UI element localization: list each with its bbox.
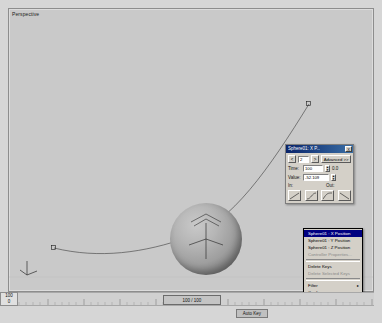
tangent-out-next-button[interactable]	[338, 190, 351, 201]
tangent-buttons-row	[288, 190, 351, 201]
advanced-button[interactable]: Advanced >>	[321, 155, 351, 163]
out-label: Out:	[326, 183, 339, 188]
key-info-title: Sphere01: X P...	[288, 145, 320, 153]
time-slider[interactable]: 100 / 100	[163, 295, 221, 305]
time-row: Time: 100 ▲▼ 0.0	[288, 165, 351, 172]
context-menu-item[interactable]: Delete Keys	[304, 263, 362, 270]
key-info-dialog[interactable]: Sphere01: X P... X < 2 > Advanced >> Tim…	[285, 144, 354, 204]
value-row: Value: -52.109 ▲▼	[288, 174, 351, 181]
tangent-in-prev-button[interactable]	[288, 190, 301, 201]
tangent-in-type-button[interactable]	[305, 190, 318, 201]
current-frame-secondary: 0	[1, 299, 17, 305]
auto-key-button[interactable]: Auto Key	[236, 309, 268, 318]
time-field[interactable]: 100	[303, 165, 323, 172]
key-info-titlebar[interactable]: Sphere01: X P... X	[286, 145, 353, 153]
context-menu-item-label: Sphere01 : Y Position	[308, 237, 350, 244]
in-label: In:	[288, 183, 301, 188]
time-label: Time:	[288, 166, 301, 171]
next-key-button[interactable]: >	[311, 155, 319, 163]
key-nav-row: < 2 > Advanced >>	[288, 155, 351, 163]
current-frame-field[interactable]: 100 0	[0, 292, 18, 306]
context-menu-item[interactable]: Sphere01 : Y Position	[304, 237, 362, 244]
status-bar	[0, 306, 382, 323]
key-info-body: < 2 > Advanced >> Time: 100 ▲▼ 0.0 Value…	[286, 153, 353, 203]
time-unit-label: 0.0	[332, 166, 338, 171]
value-spinner[interactable]: ▲▼	[331, 174, 336, 181]
tangent-out-type-button[interactable]	[321, 190, 334, 201]
close-icon[interactable]: X	[345, 146, 352, 152]
context-menu-separator	[306, 278, 360, 281]
track-bar[interactable]: 100 / 100	[8, 292, 374, 306]
tangent-label-row: In: Out:	[288, 183, 351, 188]
value-field[interactable]: -52.109	[303, 174, 329, 181]
app-window: Perspective	[0, 0, 382, 323]
chevron-right-icon: ▸	[357, 282, 359, 289]
context-menu-item-label: Controller Properties...	[308, 251, 352, 258]
prev-key-button[interactable]: <	[288, 155, 296, 163]
time-spinner[interactable]: ▲▼	[325, 165, 330, 172]
world-axis-tripod-icon	[19, 257, 41, 279]
sphere-object[interactable]	[170, 203, 242, 275]
context-menu-item-label: Delete Selected Keys	[308, 270, 350, 277]
context-menu-item-label: Delete Keys	[308, 263, 332, 270]
value-label: Value:	[288, 175, 301, 180]
context-menu-item[interactable]: Controller Properties...	[304, 251, 362, 258]
context-menu-item-label: Sphere01 : Z Position	[308, 244, 350, 251]
context-menu-item[interactable]: Sphere01 : X Position	[304, 230, 362, 237]
context-menu-item[interactable]: Sphere01 : Z Position	[304, 244, 362, 251]
context-menu-item-label: Sphere01 : X Position	[308, 230, 350, 237]
key-index-field[interactable]: 2	[298, 156, 309, 163]
context-menu-item[interactable]: Filter ▸	[304, 282, 362, 289]
context-menu-item-label: Filter	[308, 282, 318, 289]
context-menu-item[interactable]: Delete Selected Keys	[304, 270, 362, 277]
context-menu-separator	[306, 259, 360, 262]
